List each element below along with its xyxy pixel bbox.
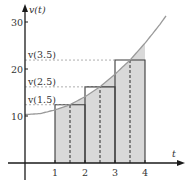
annotation-v-2-5: v(2.5) xyxy=(27,76,56,87)
y-axis-arrow-icon xyxy=(22,4,28,12)
x-tick-label-4: 4 xyxy=(142,167,148,178)
x-tick-label-3: 3 xyxy=(112,167,118,178)
y-tick-label-10: 10 xyxy=(11,111,23,122)
y-tick-label-30: 30 xyxy=(11,17,23,28)
x-axis-label: t xyxy=(172,148,176,159)
x-tick-label-2: 2 xyxy=(82,167,88,178)
annotation-v-1-5: v(1.5) xyxy=(27,94,56,105)
midpoint-riemann-sum-chart: v(t) t 10 20 30 1 2 3 4 v(1.5) v(2.5) v(… xyxy=(0,0,187,185)
x-tick-label-1: 1 xyxy=(52,167,58,178)
x-axis-arrow-icon xyxy=(177,160,185,166)
annotation-v-3-5: v(3.5) xyxy=(27,49,56,60)
y-tick-label-20: 20 xyxy=(11,64,23,75)
y-axis-label: v(t) xyxy=(29,4,46,15)
